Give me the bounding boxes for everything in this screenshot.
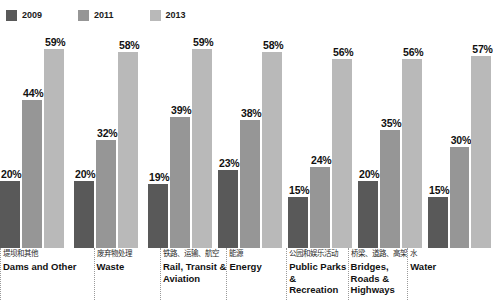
bar-2013[interactable]: 58% [118, 26, 138, 248]
bar-value-label: 44% [23, 87, 43, 99]
bar-rect [310, 167, 330, 248]
axis-label-en: Public Parks & Recreation [289, 261, 347, 296]
axis-label-1: 堤坝和其他Dams and Other [0, 248, 94, 300]
bar-value-label: 20% [1, 168, 21, 180]
legend-item-2011: 2011 [78, 10, 114, 21]
axis-label-en: Rail, Transit & Aviation [163, 261, 226, 284]
axis-label-en: Energy [229, 261, 286, 273]
axis-label-cn: 水 [410, 249, 461, 259]
bar-group: 20%44%59% [0, 26, 74, 248]
axis-label-cn: 铁路、运输、航空 [163, 249, 226, 259]
bar-rect [262, 52, 282, 248]
bar-2009[interactable]: 15% [428, 26, 448, 248]
bar-rect [148, 184, 168, 248]
bar-rect [288, 197, 308, 248]
legend-swatch-2013 [150, 10, 161, 21]
bar-value-label: 30% [451, 134, 471, 146]
bar-2009[interactable]: 20% [74, 26, 94, 248]
bar-rect [428, 197, 448, 248]
bar-rect [170, 117, 190, 248]
bar-value-label: 59% [45, 36, 65, 48]
axis-label-cn: 堤坝和其他 [3, 249, 94, 259]
bar-rect [471, 56, 491, 248]
bar-value-label: 15% [429, 184, 449, 196]
legend-swatch-2011 [78, 10, 89, 21]
bar-group: 23%38%58% [218, 26, 288, 248]
bar-2013[interactable]: 58% [262, 26, 282, 248]
bar-value-label: 56% [403, 46, 423, 58]
axis-label-7: 水Water [407, 248, 461, 300]
bar-2009[interactable]: 20% [358, 26, 378, 248]
bar-2011[interactable]: 30% [450, 26, 470, 248]
bar-value-label: 56% [333, 46, 353, 58]
bar-group: 19%39%59% [148, 26, 218, 248]
legend-item-2013: 2013 [150, 10, 186, 21]
bar-group: 20%32%58% [74, 26, 148, 248]
axis-label-en: Dams and Other [3, 261, 94, 273]
bar-group: 15%30%57% [428, 26, 491, 248]
bar-group: 20%35%56% [358, 26, 428, 248]
bar-2013[interactable]: 56% [332, 26, 352, 248]
bar-2011[interactable]: 39% [170, 26, 190, 248]
bar-rect [380, 130, 400, 248]
bar-2011[interactable]: 24% [310, 26, 330, 248]
axis-label-cn: 桥梁、道路、高架 [351, 249, 408, 259]
axis-label-en: Waste [97, 261, 160, 273]
bar-rect [118, 52, 138, 248]
bar-rect [22, 100, 42, 248]
axis-label-en: Water [410, 261, 461, 273]
bar-rect [0, 181, 20, 248]
bar-2011[interactable]: 38% [240, 26, 260, 248]
legend-label-2009: 2009 [22, 10, 42, 21]
bar-2013[interactable]: 56% [402, 26, 422, 248]
bar-value-label: 57% [472, 43, 492, 55]
bar-value-label: 23% [219, 157, 239, 169]
bar-rect [218, 170, 238, 248]
category-axis: 堤坝和其他Dams and Other废弃物处理Waste铁路、运输、航空Rai… [0, 248, 461, 302]
bar-2009[interactable]: 23% [218, 26, 238, 248]
bar-2013[interactable]: 59% [192, 26, 212, 248]
axis-label-5: 公园和娱乐活动Public Parks & Recreation [286, 248, 347, 300]
bar-rect [74, 181, 94, 248]
legend-label-2011: 2011 [94, 10, 114, 21]
legend-item-2009: 2009 [6, 10, 42, 21]
bar-value-label: 35% [381, 117, 401, 129]
axis-label-cn: 公园和娱乐活动 [289, 249, 347, 259]
axis-label-2: 废弃物处理Waste [94, 248, 160, 300]
axis-label-3: 铁路、运输、航空Rail, Transit & Aviation [160, 248, 226, 300]
chart-legend: 2009 2011 2013 [6, 7, 222, 23]
bar-2009[interactable]: 19% [148, 26, 168, 248]
legend-swatch-2009 [6, 10, 17, 21]
axis-label-cn: 废弃物处理 [97, 249, 160, 259]
bar-value-label: 20% [359, 168, 379, 180]
bar-rect [402, 59, 422, 248]
axis-label-6: 桥梁、道路、高架Bridges, Roads & Highways [348, 248, 408, 300]
bar-2011[interactable]: 44% [22, 26, 42, 248]
bar-value-label: 58% [263, 39, 283, 51]
bar-rect [358, 181, 378, 248]
axis-label-cn: 能源 [229, 249, 286, 259]
bar-value-label: 32% [97, 127, 117, 139]
bar-2013[interactable]: 59% [44, 26, 64, 248]
bar-2011[interactable]: 32% [96, 26, 116, 248]
bar-value-label: 58% [119, 39, 139, 51]
bar-value-label: 15% [289, 184, 309, 196]
bar-rect [96, 140, 116, 248]
bar-2009[interactable]: 20% [0, 26, 20, 248]
bar-2009[interactable]: 15% [288, 26, 308, 248]
bar-rect [192, 49, 212, 248]
bar-value-label: 20% [75, 168, 95, 180]
bar-value-label: 59% [193, 36, 213, 48]
bar-value-label: 39% [171, 104, 191, 116]
bar-2011[interactable]: 35% [380, 26, 400, 248]
bar-2013[interactable]: 57% [471, 26, 491, 248]
bar-value-label: 38% [241, 107, 261, 119]
bar-rect [450, 147, 470, 248]
axis-label-en: Bridges, Roads & Highways [351, 261, 408, 296]
legend-label-2013: 2013 [166, 10, 186, 21]
bar-group: 15%24%56% [288, 26, 358, 248]
bar-rect [332, 59, 352, 248]
bar-rect [44, 49, 64, 248]
axis-label-4: 能源Energy [226, 248, 286, 300]
bar-chart-plot: 20%44%59%20%32%58%19%39%59%23%38%58%15%2… [0, 26, 461, 248]
